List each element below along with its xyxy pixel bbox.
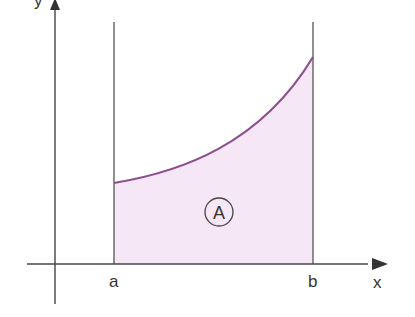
x-axis-arrow-icon bbox=[372, 258, 388, 270]
y-axis-arrow-icon bbox=[50, 0, 60, 10]
x-axis-label: x bbox=[373, 273, 382, 292]
bound-label-a: a bbox=[109, 272, 119, 291]
y-axis-label: y bbox=[34, 0, 43, 10]
area-diagram: y x a b A bbox=[0, 0, 415, 317]
diagram-canvas: y x a b A bbox=[0, 0, 415, 317]
shaded-area-region bbox=[114, 57, 313, 264]
bound-label-b: b bbox=[308, 272, 317, 291]
area-label: A bbox=[213, 203, 225, 223]
